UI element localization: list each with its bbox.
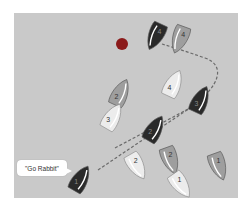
svg-text:1: 1 bbox=[74, 178, 78, 185]
svg-text:2: 2 bbox=[134, 157, 138, 164]
svg-text:4: 4 bbox=[168, 84, 172, 91]
svg-text:3: 3 bbox=[195, 100, 199, 107]
go-rabbit-callout: "Go Rabbit" bbox=[17, 160, 67, 176]
svg-text:1: 1 bbox=[177, 176, 181, 183]
boat-light-1-icon: 1 bbox=[167, 170, 196, 202]
race-diagram: 444233222111 bbox=[0, 0, 251, 215]
svg-text:3: 3 bbox=[106, 116, 110, 123]
callout-text: "Go Rabbit" bbox=[25, 165, 59, 172]
svg-text:4: 4 bbox=[181, 31, 185, 38]
svg-text:2: 2 bbox=[148, 128, 152, 135]
svg-text:2: 2 bbox=[169, 151, 173, 158]
svg-text:2: 2 bbox=[115, 93, 119, 100]
boat-light-2-icon: 2 bbox=[123, 151, 151, 183]
boat-dark-4-top-icon: 4 bbox=[142, 21, 168, 53]
boat-mid-2-left-icon: 2 bbox=[108, 76, 134, 108]
boat-dark-2-icon: 2 bbox=[141, 112, 169, 144]
boat-light-4-icon: 4 bbox=[161, 67, 187, 99]
boat-dark-3-icon: 3 bbox=[188, 83, 214, 115]
boat-mid-4-top-icon: 4 bbox=[167, 24, 191, 56]
mark-buoy-icon bbox=[116, 38, 128, 50]
svg-text:4: 4 bbox=[158, 28, 162, 35]
svg-text:1: 1 bbox=[217, 157, 221, 164]
boat-mid-1-icon: 1 bbox=[206, 151, 230, 183]
